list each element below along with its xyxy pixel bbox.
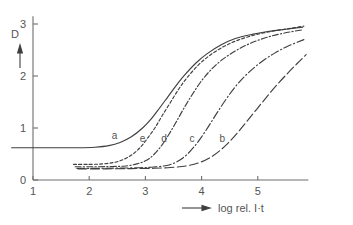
x-tick-label: 2 [86,185,92,197]
plot-svg: 012312345 aedcb D log rel. I·t [0,0,353,225]
curve-label-d: d [161,133,167,144]
y-tick-label: 3 [20,18,26,30]
y-tick-label: 0 [20,174,26,186]
curve-label-e: e [140,133,146,144]
curve-label-b: b [220,133,226,144]
curve-label-c: c [190,133,195,144]
curve-label-a: a [112,130,118,141]
y-tick-label: 2 [20,70,26,82]
curve-a [12,27,303,148]
x-tick-label: 3 [142,185,148,197]
right-arrow-icon [182,206,210,211]
characteristic-curves-figure: 012312345 aedcb D log rel. I·t [0,0,353,225]
curve-labels-group: aedcb [112,130,226,144]
curve-c [77,40,304,169]
x-axis-title: log rel. I·t [218,202,264,214]
up-arrow-icon [18,45,23,68]
y-axis-title: D [11,28,19,40]
x-tick-label: 4 [199,185,205,197]
x-tick-label: 5 [255,185,261,197]
curves-group [12,26,306,169]
x-axis-title-group: log rel. I·t [182,202,264,214]
axes-group: 012312345 [20,16,309,197]
x-tick-label: 1 [30,185,36,197]
y-tick-label: 1 [20,122,26,134]
curve-d [75,30,303,167]
y-axis-title-group: D [11,28,22,68]
